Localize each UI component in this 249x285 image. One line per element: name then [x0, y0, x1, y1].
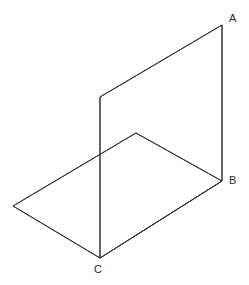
geometry-canvas [0, 0, 249, 285]
vertex-label-b: B [229, 175, 236, 186]
vertex-label-a: A [229, 13, 236, 24]
geometry-figure: A B C [0, 0, 249, 285]
vertex-label-c: C [94, 264, 102, 275]
